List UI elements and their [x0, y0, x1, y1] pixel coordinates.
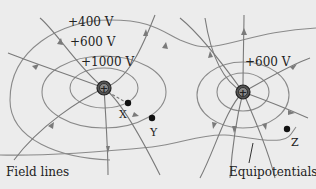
- label-1000v: +1000 V: [81, 55, 134, 69]
- caption-field-lines: Field lines: [6, 165, 69, 179]
- point-y: [149, 115, 155, 121]
- label-y: Y: [149, 126, 158, 139]
- label-z: Z: [291, 136, 299, 149]
- label-x: X: [119, 108, 127, 121]
- label-600v-left: +600 V: [70, 35, 116, 49]
- plus-icon: +: [100, 83, 108, 94]
- field-diagram: + + +400 V +600 V +1000 V +600 V X Y Z F…: [0, 0, 316, 189]
- charge-right: +: [236, 85, 250, 99]
- plus-icon: +: [239, 87, 247, 98]
- equipotentials-pointer: [249, 143, 253, 163]
- point-x: [125, 100, 131, 106]
- charge-left: +: [97, 81, 111, 95]
- caption-equipotentials: Equipotentials: [229, 165, 316, 179]
- equipotentials-left: [10, 20, 316, 160]
- label-600v-right: +600 V: [245, 55, 291, 69]
- point-z: [284, 126, 290, 132]
- label-400v: +400 V: [68, 15, 114, 29]
